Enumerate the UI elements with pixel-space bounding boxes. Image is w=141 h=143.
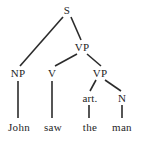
edge-s-vp1 — [71, 17, 81, 40]
node-np: NP — [11, 68, 25, 79]
node-vp-lower: VP — [93, 68, 107, 79]
terminal-john: John — [8, 122, 30, 133]
node-art: art. — [82, 93, 97, 104]
node-s: S — [64, 5, 70, 16]
node-vp-upper: VP — [75, 42, 89, 53]
node-v: V — [48, 68, 56, 79]
terminal-man: man — [112, 122, 132, 133]
edge-vp1-v — [55, 54, 77, 66]
edge-vp2-n — [105, 80, 121, 91]
terminal-saw: saw — [44, 122, 62, 133]
node-n: N — [118, 93, 126, 104]
edge-vp1-vp2 — [87, 54, 101, 66]
edge-s-np — [20, 17, 63, 66]
edge-vp2-art — [90, 80, 96, 91]
terminal-the: the — [83, 122, 97, 133]
syntax-tree-figure: S NP VP V VP art. N John saw the man — [0, 0, 141, 143]
